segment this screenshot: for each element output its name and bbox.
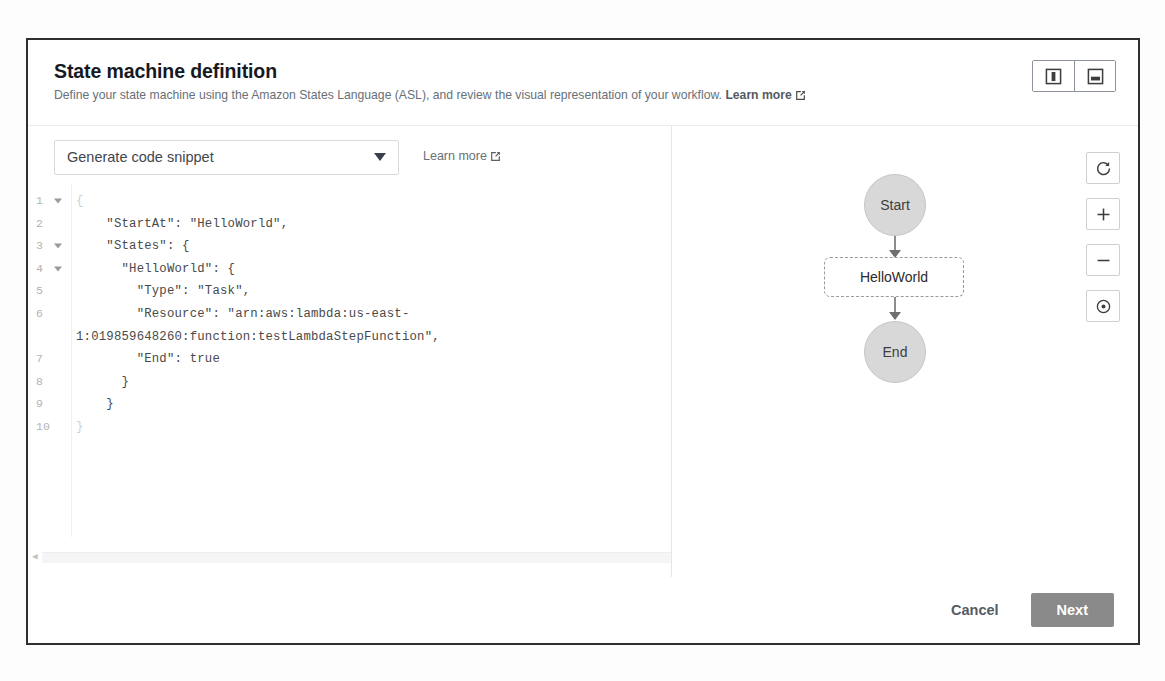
page-title: State machine definition: [54, 60, 1112, 83]
editor-inner: 12345678910 { "StartAt": "HelloWorld", "…: [28, 184, 671, 537]
zoom-out-button[interactable]: [1086, 244, 1120, 276]
center-graph-button[interactable]: [1086, 290, 1120, 322]
dialog-body: Generate code snippet Learn more 1234567…: [28, 126, 1138, 581]
editor-line-number: 5: [28, 280, 71, 303]
editor-code-line: }: [76, 393, 671, 416]
dialog-header: State machine definition Define your sta…: [28, 40, 1138, 126]
graph-arrow-head-icon: [889, 312, 901, 320]
editor-code-line: "End": true: [76, 348, 671, 371]
code-fold-toggle-icon[interactable]: [54, 267, 62, 272]
editor-code-line: "Type": "Task",: [76, 280, 671, 303]
graph-node-helloworld-label: HelloWorld: [860, 269, 928, 285]
generate-code-snippet-value: Generate code snippet: [67, 149, 214, 165]
refresh-graph-button[interactable]: [1086, 152, 1120, 184]
layout-toggle-group[interactable]: [1032, 60, 1116, 92]
scroll-left-arrow-icon[interactable]: ◀: [28, 553, 42, 562]
editor-line-number: [28, 326, 71, 349]
editor-code-line: "HelloWorld": {: [76, 258, 671, 281]
screen: State machine definition Define your sta…: [0, 0, 1165, 681]
next-button[interactable]: Next: [1031, 593, 1114, 627]
editor-line-number: 2: [28, 213, 71, 236]
editor-line-number: 4: [28, 258, 71, 281]
code-fold-toggle-icon[interactable]: [54, 244, 62, 249]
editor-learn-more-label: Learn more: [423, 149, 487, 163]
editor-code-line: {: [76, 190, 671, 213]
header-learn-more-link[interactable]: Learn more: [725, 88, 791, 102]
code-editor-pane: Generate code snippet Learn more 1234567…: [28, 126, 672, 581]
editor-line-number: 10: [28, 416, 71, 439]
editor-code-line: }: [76, 371, 671, 394]
generate-code-snippet-select[interactable]: Generate code snippet: [54, 140, 399, 175]
external-link-icon[interactable]: [490, 151, 501, 165]
chevron-down-icon[interactable]: [374, 153, 386, 161]
asl-code-editor[interactable]: 12345678910 { "StartAt": "HelloWorld", "…: [28, 184, 671, 569]
editor-line-number: 9: [28, 393, 71, 416]
horizontal-split-icon: [1087, 68, 1104, 85]
dialog-footer: Cancel Next: [28, 577, 1138, 643]
vertical-split-icon: [1045, 68, 1062, 85]
plus-icon: [1095, 206, 1112, 223]
editor-line-number: 6: [28, 303, 71, 326]
page-subtitle: Define your state machine using the Amaz…: [54, 87, 1112, 105]
editor-code-line: 1:019859648260:function:testLambdaStepFu…: [76, 326, 671, 349]
editor-code-line: "StartAt": "HelloWorld",: [76, 213, 671, 236]
vertical-split-layout-button[interactable]: [1033, 61, 1074, 91]
subtitle-text: Define your state machine using the Amaz…: [54, 88, 722, 102]
graph-node-end[interactable]: End: [864, 321, 926, 383]
graph-node-start[interactable]: Start: [864, 174, 926, 236]
editor-code-line: }: [76, 416, 671, 439]
code-fold-toggle-icon[interactable]: [54, 199, 62, 204]
minus-icon: [1095, 252, 1112, 269]
editor-line-number: 7: [28, 348, 71, 371]
editor-horizontal-scrollbar[interactable]: ◀: [28, 549, 671, 565]
editor-toolbar: Generate code snippet Learn more: [28, 126, 671, 184]
external-link-icon[interactable]: [795, 89, 806, 105]
graph-controls: [1086, 152, 1120, 322]
editor-code-line: "States": {: [76, 235, 671, 258]
horizontal-split-layout-button[interactable]: [1074, 61, 1115, 91]
editor-line-number: 1: [28, 190, 71, 213]
zoom-in-button[interactable]: [1086, 198, 1120, 230]
target-icon: [1095, 298, 1112, 315]
graph-node-start-label: Start: [880, 197, 910, 213]
state-machine-definition-dialog: State machine definition Define your sta…: [26, 38, 1140, 645]
workflow-graph-pane: Start HelloWorld End: [672, 126, 1138, 581]
graph-node-end-label: End: [883, 344, 908, 360]
workflow-graph-canvas[interactable]: Start HelloWorld End: [672, 126, 1138, 580]
scrollbar-track[interactable]: [42, 552, 671, 563]
editor-line-number: 8: [28, 371, 71, 394]
editor-line-number: 3: [28, 235, 71, 258]
editor-code-line: "Resource": "arn:aws:lambda:us-east-: [76, 303, 671, 326]
graph-node-helloworld[interactable]: HelloWorld: [824, 257, 964, 297]
cancel-button[interactable]: Cancel: [933, 594, 1017, 626]
refresh-icon: [1095, 160, 1112, 177]
editor-learn-more-link[interactable]: Learn more: [423, 149, 501, 165]
editor-line-numbers: 12345678910: [28, 184, 72, 537]
editor-code-content[interactable]: { "StartAt": "HelloWorld", "States": { "…: [72, 184, 671, 537]
